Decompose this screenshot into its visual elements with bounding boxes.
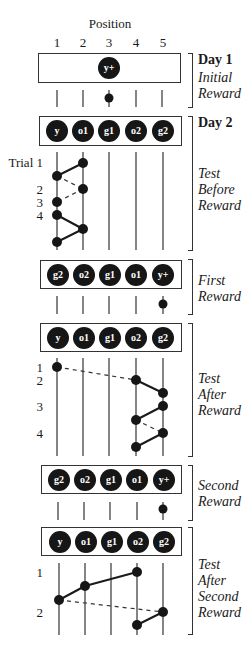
test-before-lanes (57, 152, 163, 250)
trial-label-4: 4 (8, 208, 43, 224)
object-ball-g1: g1 (99, 327, 121, 349)
phase-label-reward: Reward (198, 605, 241, 621)
reward-dot-second (159, 505, 168, 514)
phase-label-after: After (198, 573, 226, 589)
reward-dot-first (159, 300, 168, 309)
test-after-dashed-links (57, 367, 163, 433)
object-ball-o1: o1 (73, 327, 95, 349)
bracket-test-after (188, 323, 193, 457)
arena-box-second-reward: g2 o2 g1 o1 y+ (41, 465, 182, 494)
object-ball-o2: o2 (125, 120, 147, 142)
phase-label-reward: Reward (198, 289, 241, 305)
trial-label-2: 2 (8, 373, 43, 389)
trial-label-4: 4 (8, 426, 43, 442)
trial-label-3: 3 (8, 399, 43, 415)
object-ball-g2: g2 (47, 264, 69, 286)
object-ball-g2: g2 (152, 120, 174, 142)
bracket-first-reward (188, 259, 193, 315)
object-ball-y: y (46, 120, 68, 142)
test-after-solid-links (136, 380, 163, 447)
arena-box-test-after-second: y o1 g1 o2 g2 (41, 527, 182, 556)
phase-label-second: Second (198, 589, 238, 605)
object-ball-y-plus: y+ (152, 264, 174, 286)
phase-label-before: Before (198, 182, 235, 198)
bracket-second-reward (188, 465, 193, 521)
object-ball-y: y (49, 531, 71, 553)
object-ball-g1: g1 (99, 264, 121, 286)
object-ball-y: y (47, 327, 69, 349)
bracket-test-before (188, 116, 193, 251)
object-ball-g2: g2 (48, 469, 70, 491)
trial-label-1: 1 (8, 565, 43, 581)
phase-label-reward: Reward (198, 494, 241, 510)
object-ball-o1: o1 (72, 120, 94, 142)
reward-ticks-second (58, 502, 163, 520)
test-after-second-lanes (59, 563, 163, 635)
reward-dot-day1 (105, 94, 114, 103)
object-ball-o1: o1 (75, 531, 97, 553)
object-ball-g1: g1 (100, 469, 122, 491)
trial-label-1: Trial 1 (8, 155, 43, 171)
phase-label-initial: Initial (198, 70, 232, 86)
arena-box-test-before: y o1 g1 o2 g2 (39, 116, 182, 146)
phase-label-after: After (198, 387, 226, 403)
object-ball-y-plus: y+ (153, 469, 175, 491)
phase-label-test: Test (198, 371, 220, 387)
day-label-2: Day 2 (198, 115, 233, 131)
object-ball-g2: g2 (152, 327, 174, 349)
bracket-day1 (188, 53, 193, 108)
phase-label-test: Test (198, 166, 220, 182)
arena-box-test-after: y o1 g1 o2 g2 (40, 323, 182, 352)
phase-label-first: First (198, 273, 225, 289)
phase-label-reward: Reward (198, 198, 241, 214)
object-ball-g1: g1 (98, 120, 120, 142)
object-ball-o2: o2 (127, 531, 149, 553)
arena-box-day1: y+ (38, 53, 181, 83)
object-ball-g1: g1 (101, 531, 123, 553)
object-ball-o2: o2 (73, 264, 95, 286)
object-ball-g2: g2 (153, 531, 175, 553)
object-ball-o1: o1 (125, 264, 147, 286)
phase-label-reward: Reward (198, 403, 241, 419)
bracket-test-after-second (188, 527, 193, 635)
day-label-1: Day 1 (198, 52, 233, 68)
reward-ticks-first (57, 296, 163, 314)
object-ball-o2: o2 (125, 327, 147, 349)
phase-label-second: Second (198, 478, 238, 494)
arena-box-first-reward: g2 o2 g1 o1 y+ (40, 260, 182, 289)
phase-label-test: Test (198, 557, 220, 573)
trial-label-2: 2 (8, 605, 43, 621)
object-ball-y-plus: y+ (98, 57, 120, 79)
phase-label-reward: Reward (198, 86, 241, 102)
object-ball-o2: o2 (74, 469, 96, 491)
object-ball-o1: o1 (126, 469, 148, 491)
